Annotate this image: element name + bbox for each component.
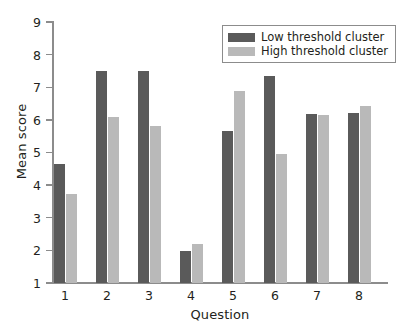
bar-q7-high — [318, 115, 329, 283]
bar-q4-high — [192, 244, 203, 283]
chart-legend: Low threshold clusterHigh threshold clus… — [222, 25, 396, 63]
bar-q8-low — [348, 113, 359, 283]
x-axis-tick-label: 6 — [260, 288, 290, 303]
y-axis-tick: 9 — [46, 21, 53, 22]
y-axis-tick: 4 — [46, 184, 53, 185]
bar-q8-high — [360, 106, 371, 283]
y-axis-tick: 2 — [46, 250, 53, 251]
y-axis-tick: 8 — [46, 54, 53, 55]
bar-q6-high — [276, 154, 287, 283]
y-axis-tick: 3 — [46, 217, 53, 218]
bar-q1-high — [66, 194, 77, 283]
bar-q5-high — [234, 91, 245, 283]
y-axis-tick-label: 4 — [33, 178, 41, 193]
y-axis-tick-label: 3 — [33, 210, 41, 225]
bar-q3-low — [138, 71, 149, 283]
bar-q7-low — [306, 114, 317, 283]
bar-q3-high — [150, 126, 161, 283]
x-axis-title: Question — [52, 307, 388, 322]
x-axis-tick-label: 8 — [344, 288, 374, 303]
y-axis-tick-label: 5 — [33, 145, 41, 160]
legend-item: Low threshold cluster — [228, 30, 388, 44]
bar-chart: Mean score 123456789 12345678 Question L… — [0, 0, 399, 331]
legend-label: High threshold cluster — [261, 44, 388, 58]
y-axis-tick: 5 — [46, 152, 53, 153]
bar-q5-low — [222, 131, 233, 283]
x-axis-tick-label: 3 — [134, 288, 164, 303]
x-axis-tick-label: 1 — [50, 288, 80, 303]
y-axis-tick-label: 6 — [33, 112, 41, 127]
y-axis-tick-label: 9 — [33, 14, 41, 29]
y-axis-tick-label: 7 — [33, 80, 41, 95]
y-axis-tick: 1 — [46, 282, 53, 283]
x-axis-tick-label: 4 — [176, 288, 206, 303]
y-axis-tick-label: 2 — [33, 243, 41, 258]
x-axis-tick-label: 2 — [92, 288, 122, 303]
bar-q2-low — [96, 71, 107, 283]
y-axis-tick-label: 1 — [33, 275, 41, 290]
x-axis-tick-label: 5 — [218, 288, 248, 303]
legend-swatch-high — [228, 47, 255, 56]
legend-swatch-low — [228, 33, 255, 42]
bar-q1-low — [54, 164, 65, 283]
bar-q6-low — [264, 76, 275, 283]
x-axis-tick-label: 7 — [302, 288, 332, 303]
bar-q2-high — [108, 117, 119, 283]
legend-label: Low threshold cluster — [261, 30, 384, 44]
y-axis-tick: 6 — [46, 119, 53, 120]
y-axis-tick: 7 — [46, 87, 53, 88]
legend-item: High threshold cluster — [228, 44, 388, 58]
y-axis-title: Mean score — [14, 82, 29, 202]
y-axis-tick-label: 8 — [33, 47, 41, 62]
bar-q4-low — [180, 251, 191, 283]
